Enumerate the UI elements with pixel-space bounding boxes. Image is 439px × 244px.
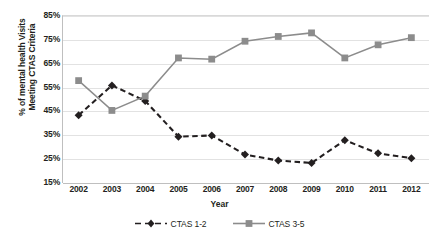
legend-label-ctas-1-2: CTAS 1-2 bbox=[171, 219, 207, 229]
x-axis-tick-label: 2012 bbox=[391, 184, 431, 194]
line-chart: % of mental health Visits Meeting CTAS C… bbox=[0, 0, 439, 244]
legend-item-ctas-3-5[interactable]: CTAS 3-5 bbox=[233, 218, 305, 229]
chart-legend: CTAS 1-2 CTAS 3-5 bbox=[0, 218, 439, 229]
dashed-line-diamond-marker-icon bbox=[135, 218, 167, 229]
x-axis-title: Year bbox=[0, 199, 439, 209]
legend-label-ctas-3-5: CTAS 3-5 bbox=[269, 219, 305, 229]
solid-line-square-marker-icon bbox=[233, 218, 265, 229]
legend-item-ctas-1-2[interactable]: CTAS 1-2 bbox=[135, 218, 207, 229]
